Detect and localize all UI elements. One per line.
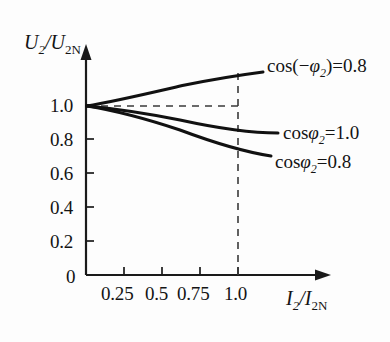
- series-label-capacitive-post: )=0.8: [326, 55, 367, 76]
- x-axis-ticks: [124, 267, 238, 275]
- series-label-unity-pre: cos: [283, 122, 308, 143]
- y-tick-label-0.4: 0.4: [50, 198, 73, 217]
- y-tick-label-0.6: 0.6: [50, 164, 73, 183]
- x-axis: [86, 270, 331, 281]
- y-tick-label-0.8: 0.8: [50, 130, 73, 149]
- x-tick-label-1.0: 1.0: [224, 284, 247, 303]
- y-axis-ticks: [86, 105, 94, 241]
- x-tick-label-0.5: 0.5: [145, 284, 168, 303]
- series-label-unity-phi: φ: [308, 122, 319, 143]
- series-label-capacitive-phi: φ: [309, 55, 320, 76]
- series-label-inductive: cosφ2=0.8: [275, 152, 351, 175]
- x-axis-title-denominator-sub: 2N: [311, 298, 327, 313]
- y-tick-label-0: 0: [66, 267, 75, 286]
- y-tick-label-1.0: 1.0: [50, 96, 73, 115]
- x-axis-title: I2/I2N: [286, 288, 327, 312]
- series-curve-unity: [87, 106, 278, 133]
- y-axis-title-denominator: U: [51, 31, 65, 53]
- series-label-inductive-phi: φ: [300, 151, 311, 172]
- y-axis-title-denominator-sub: 2N: [65, 42, 81, 57]
- series-label-inductive-post: =0.8: [317, 151, 351, 172]
- series-curve-capacitive: [87, 72, 263, 106]
- y-tick-label-0.2: 0.2: [50, 232, 73, 251]
- series-label-inductive-pre: cos: [275, 151, 300, 172]
- chart-figure: 1.0 0.8 0.6 0.4 0.2 0 0.25 0.5 0.75 1.0 …: [0, 0, 390, 342]
- x-tick-label-0.25: 0.25: [101, 284, 133, 303]
- x-axis-title-numerator: I: [286, 287, 293, 309]
- series-label-unity-post: =1.0: [325, 122, 359, 143]
- x-tick-label-0.75: 0.75: [177, 284, 209, 303]
- series-label-capacitive-pre: cos(−: [267, 55, 309, 76]
- series-label-capacitive: cos(−φ2)=0.8: [267, 56, 367, 79]
- y-axis-title-numerator: U: [24, 31, 38, 53]
- y-axis-title: U2/U2N: [24, 32, 81, 56]
- series-label-unity: cosφ2=1.0: [283, 123, 359, 146]
